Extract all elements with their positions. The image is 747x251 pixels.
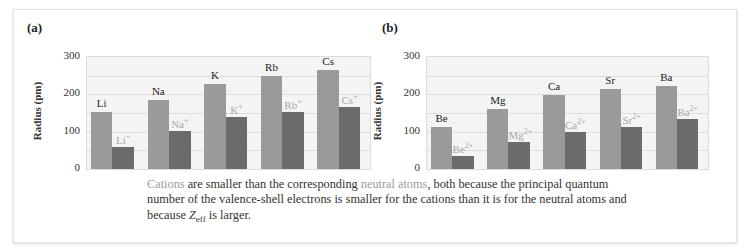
charge-superscript: + xyxy=(238,102,243,111)
label-cs-ion: Cs+ xyxy=(339,92,361,106)
y-tick-label: 300 xyxy=(390,49,420,61)
label-sr-ion: Sr2+ xyxy=(621,112,642,126)
bar-li xyxy=(91,112,113,169)
label-rb-ion: Rb+ xyxy=(282,97,304,111)
y-tick-label: 100 xyxy=(390,124,420,136)
charge-superscript: + xyxy=(184,116,189,125)
bar-mg-ion xyxy=(508,142,529,169)
bar-na xyxy=(148,100,170,169)
bar-cs xyxy=(317,70,339,169)
label-be-ion: Be2+ xyxy=(452,141,473,155)
label-mg: Mg xyxy=(487,94,508,106)
y-tick-label: 300 xyxy=(50,49,80,61)
label-sr: Sr xyxy=(600,74,621,86)
bar-k-ion xyxy=(226,117,248,169)
plot-area: BeBe2+MgMg2+CaCa2+SrSr2+BaBa2+ xyxy=(426,56,709,170)
bar-sr-ion xyxy=(621,127,642,169)
label-ca-ion: Ca2+ xyxy=(565,117,586,131)
label-be: Be xyxy=(431,112,452,124)
y-axis-label: Radius (pm) xyxy=(371,82,383,140)
label-li-ion: Li+ xyxy=(112,132,134,146)
label-na: Na xyxy=(148,85,170,97)
panel-label: (b) xyxy=(382,20,398,36)
label-mg-ion: Mg2+ xyxy=(508,127,529,141)
charge-superscript: + xyxy=(353,92,358,101)
y-axis-label: Radius (pm) xyxy=(31,82,43,140)
bar-ca-ion xyxy=(565,132,586,169)
bar-cs-ion xyxy=(339,107,361,169)
bar-be-ion xyxy=(452,156,473,169)
figure-caption: Cations are smaller than the correspondi… xyxy=(147,177,627,227)
plot-area: LiLi+NaNa+KK+RbRb+CsCs+ xyxy=(86,56,371,170)
label-cs: Cs xyxy=(317,55,339,67)
charge-superscript: 2+ xyxy=(632,112,641,121)
caption-highlight-neutral-atoms: neutral atoms xyxy=(361,177,428,191)
bar-be xyxy=(431,127,452,169)
bar-na-ion xyxy=(169,131,191,169)
label-rb: Rb xyxy=(261,61,283,73)
charge-superscript: 2+ xyxy=(465,141,474,150)
label-li: Li xyxy=(91,97,113,109)
label-ca: Ca xyxy=(543,80,564,92)
charge-superscript: + xyxy=(297,97,302,106)
label-na-ion: Na+ xyxy=(169,116,191,130)
y-tick-label: 200 xyxy=(390,86,420,98)
bar-ba-ion xyxy=(677,119,698,169)
charge-superscript: 2+ xyxy=(690,104,699,113)
bar-ca xyxy=(543,95,564,169)
caption-highlight-cations: Cations xyxy=(147,177,185,191)
panel-label: (a) xyxy=(27,20,42,36)
bar-mg xyxy=(487,109,508,169)
bar-li-ion xyxy=(112,147,134,169)
y-tick-label: 200 xyxy=(50,86,80,98)
label-ba: Ba xyxy=(656,71,677,83)
charge-superscript: + xyxy=(126,132,131,141)
charge-superscript: 2+ xyxy=(577,117,586,126)
label-ba-ion: Ba2+ xyxy=(677,104,698,118)
label-k-ion: K+ xyxy=(226,102,248,116)
y-tick-label: 0 xyxy=(50,161,80,173)
z-eff-symbol: Z xyxy=(189,208,196,222)
bar-rb xyxy=(261,76,283,169)
bar-ba xyxy=(656,86,677,169)
y-tick-label: 100 xyxy=(50,124,80,136)
charge-superscript: 2+ xyxy=(524,127,533,136)
label-k: K xyxy=(204,69,226,81)
bar-k xyxy=(204,84,226,169)
bar-sr xyxy=(600,89,621,169)
y-tick-label: 0 xyxy=(390,161,420,173)
bar-rb-ion xyxy=(282,112,304,169)
